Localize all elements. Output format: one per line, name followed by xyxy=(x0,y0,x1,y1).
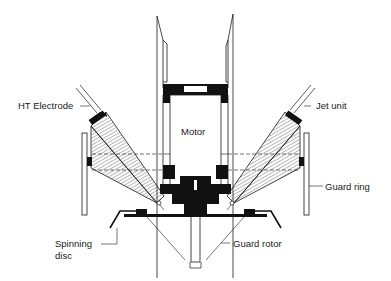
label-jet-unit: Jet unit xyxy=(316,100,347,111)
left-guard-ring xyxy=(82,133,87,215)
left-electrode-assembly xyxy=(76,85,164,210)
label-spinning-disc-line2: disc xyxy=(55,250,72,261)
shaft-slot xyxy=(194,180,197,190)
label-spinning-disc-line1: Spinning xyxy=(55,238,92,249)
label-guard-rotor: Guard rotor xyxy=(233,238,282,249)
label-ht-electrode: HT Electrode xyxy=(18,100,73,111)
label-guard-ring: Guard ring xyxy=(325,181,370,192)
left-support-tube xyxy=(157,16,167,278)
label-motor: Motor xyxy=(181,126,205,137)
right-support-tube xyxy=(226,14,233,278)
guard-rotor-shaft xyxy=(190,216,201,268)
right-guard-ring xyxy=(304,133,309,215)
right-jet-assembly xyxy=(227,85,315,210)
